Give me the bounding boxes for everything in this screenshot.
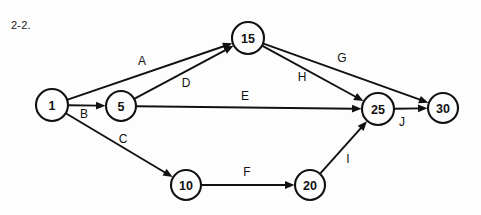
node-5[interactable]: 5	[106, 91, 136, 121]
node-label-15: 15	[241, 32, 255, 46]
edge-d	[135, 49, 227, 98]
arrowhead-j	[418, 104, 428, 112]
node-20[interactable]: 20	[295, 170, 325, 200]
edge-label-c: C	[119, 132, 128, 146]
node-label-25: 25	[371, 103, 385, 117]
node-15[interactable]: 15	[232, 22, 264, 54]
arrowhead-g	[418, 96, 428, 103]
edge-label-e: E	[241, 89, 249, 103]
edge-label-i: I	[346, 152, 349, 166]
node-label-1: 1	[49, 99, 56, 113]
arrowhead-e	[352, 105, 362, 113]
edge-label-h: H	[298, 70, 307, 84]
edge-c	[66, 113, 166, 173]
arrowhead-f	[285, 181, 295, 189]
node-10[interactable]: 10	[171, 170, 201, 200]
node-label-10: 10	[179, 179, 193, 193]
node-label-30: 30	[436, 102, 450, 116]
diagram-page: 2-2. 151510202530 ABCDEFGHIJ	[0, 0, 481, 215]
edge-i	[320, 127, 362, 174]
arrowhead-b	[96, 102, 106, 110]
node-25[interactable]: 25	[362, 93, 394, 125]
node-30[interactable]: 30	[428, 93, 458, 123]
edge-label-b: B	[80, 107, 88, 121]
node-label-5: 5	[118, 100, 125, 114]
edge-label-a: A	[138, 54, 146, 68]
edge-label-g: G	[337, 51, 346, 65]
network-diagram: 151510202530 ABCDEFGHIJ	[0, 0, 481, 215]
edge-label-f: F	[243, 165, 250, 179]
edge-label-j: J	[399, 115, 405, 129]
edge-label-d: D	[182, 76, 191, 90]
edge-e	[136, 106, 354, 109]
node-1[interactable]: 1	[36, 89, 68, 121]
node-label-20: 20	[303, 179, 317, 193]
